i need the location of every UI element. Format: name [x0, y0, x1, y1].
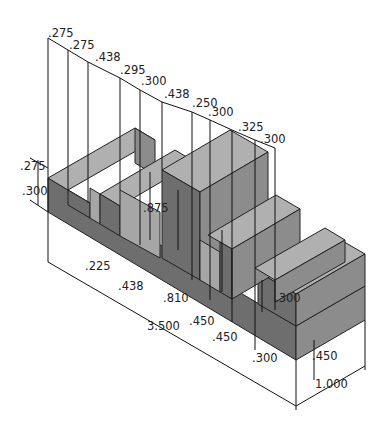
dim-bottom-4: .450: [189, 314, 215, 328]
dim-bottom-7: .450: [312, 349, 338, 363]
dim-bottom-1: .225: [85, 259, 111, 273]
dim-top-3: .438: [95, 50, 121, 64]
dim-top-10: .300: [260, 132, 286, 146]
dim-top-8: .300: [208, 105, 234, 119]
slot1: [90, 188, 100, 224]
dim-overall-length: 3.500: [147, 319, 180, 333]
dim-top-5: .300: [141, 74, 167, 88]
dim-slot-height: .875: [143, 201, 169, 215]
dim-bottom-5: .450: [212, 330, 238, 344]
dim-bottom-2: .438: [118, 279, 144, 293]
isometric-drawing: .275 .275 .438 .295 .300 .438 .250 .300 …: [0, 0, 386, 433]
dim-top-6: .438: [164, 87, 190, 101]
dim-bottom-6: .300: [252, 351, 278, 365]
dim-top-2: .275: [69, 38, 95, 52]
dim-bottom-3: .810: [163, 291, 189, 305]
dim-left-2: .300: [22, 184, 48, 198]
dim-step-height: .300: [275, 291, 301, 305]
dim-overall-width: 1.000: [315, 377, 348, 391]
dim-left-1: .275: [20, 159, 46, 173]
